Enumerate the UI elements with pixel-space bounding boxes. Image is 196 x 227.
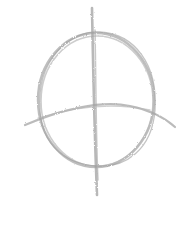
sketch-canvas [0,0,196,227]
circle-cross-sketch [25,8,175,195]
